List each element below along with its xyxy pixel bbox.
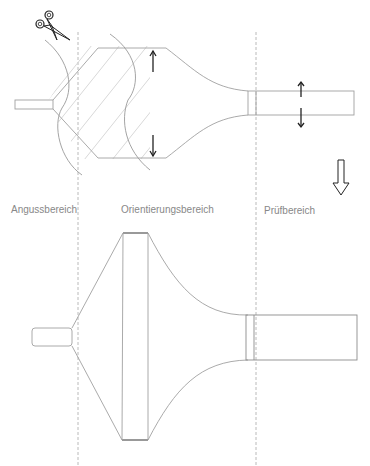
sprue-bottom [32,328,72,346]
cut-line-left [45,40,82,175]
test-bar-bottom [246,315,357,360]
up-down-arrow-icon [298,82,304,127]
down-hollow-arrow-icon [333,160,349,195]
scissors-icon [36,11,70,40]
specimen-outline-lower [72,346,248,440]
down-arrow-icon [150,135,156,156]
specimen-outline-upper [72,233,248,328]
label-orientierungsbereich: Orientierungsbereich [121,204,214,215]
specimen-diagram: Angussbereich Orientierungsbereich Prüfb… [0,0,370,466]
up-arrow-icon [150,51,156,72]
molded-part-top [0,0,354,220]
orientation-band-left [122,233,123,440]
part-outline-lower [53,109,248,158]
sprue-top [15,100,53,109]
label-pruefbereich: Prüfbereich [264,205,315,216]
specimen-bottom [32,233,357,440]
label-angussbereich: Angussbereich [11,204,77,215]
hatched-cutoff-region [0,0,240,220]
